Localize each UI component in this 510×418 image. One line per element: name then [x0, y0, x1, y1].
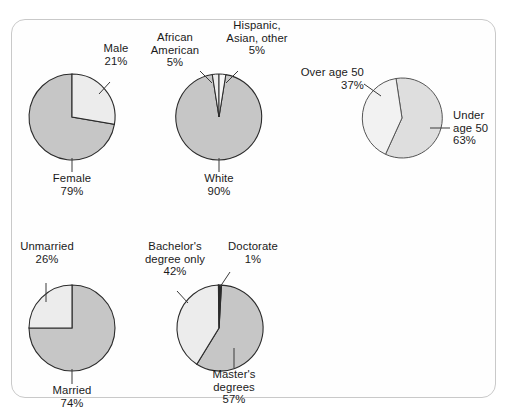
label-hispanic-asian-other: Hispanic, Asian, other 5% [215, 19, 299, 57]
label-african-american-line1: African [140, 31, 210, 44]
label-unmarried-name: Unmarried [13, 240, 81, 253]
slice-male [72, 74, 115, 124]
label-bachelors-line1: Bachelor's [136, 240, 214, 253]
pie-marital [29, 283, 115, 384]
label-female-pct: 79% [41, 185, 103, 198]
label-hispanic-line2: Asian, other [215, 32, 299, 45]
label-doctorate-pct: 1% [220, 253, 286, 266]
pie-chart-panel: Male 21% Female 79% African American 5% … [0, 0, 510, 418]
label-male: Male 21% [85, 42, 147, 67]
leader-bachelors [177, 291, 188, 303]
label-hispanic-pct: 5% [215, 44, 299, 57]
label-married-pct: 74% [41, 397, 103, 410]
label-female: Female 79% [41, 172, 103, 197]
label-african-american-pct: 5% [140, 56, 210, 69]
label-male-name: Male [85, 42, 147, 55]
label-under-age-50-pct: 63% [453, 134, 509, 147]
label-bachelors-pct: 42% [136, 265, 214, 278]
leader-doctorate [220, 272, 230, 287]
label-unmarried: Unmarried 26% [13, 240, 81, 265]
label-over-age-50: Over age 50 37% [288, 66, 364, 91]
label-masters-pct: 57% [203, 393, 265, 406]
label-over-age-50-name: Over age 50 [288, 66, 364, 79]
label-masters-line2: degrees [203, 381, 265, 394]
slice-unmarried [29, 285, 72, 328]
label-doctorate: Doctorate 1% [220, 240, 286, 265]
pie-race [176, 71, 262, 172]
label-masters-line1: Master's [203, 368, 265, 381]
label-white-name: White [188, 172, 250, 185]
pie-degree [177, 272, 263, 371]
label-married-name: Married [41, 384, 103, 397]
label-under-age-50-line1: Under [453, 109, 509, 122]
label-under-age-50-line2: age 50 [453, 122, 509, 135]
label-masters: Master's degrees 57% [203, 368, 265, 406]
label-african-american: African American 5% [140, 31, 210, 69]
label-doctorate-name: Doctorate [220, 240, 286, 253]
label-bachelors-line2: degree only [136, 253, 214, 266]
label-white-pct: 90% [188, 185, 250, 198]
label-under-age-50: Under age 50 63% [453, 109, 509, 147]
label-over-age-50-pct: 37% [288, 79, 364, 92]
pie-age [362, 78, 450, 158]
pie-gender [29, 74, 115, 172]
pie-charts-svg [0, 0, 510, 418]
label-hispanic-line1: Hispanic, [215, 19, 299, 32]
label-unmarried-pct: 26% [13, 253, 81, 266]
label-female-name: Female [41, 172, 103, 185]
label-african-american-line2: American [140, 44, 210, 57]
label-white: White 90% [188, 172, 250, 197]
label-bachelors: Bachelor's degree only 42% [136, 240, 214, 278]
label-married: Married 74% [41, 384, 103, 409]
label-male-pct: 21% [85, 55, 147, 68]
